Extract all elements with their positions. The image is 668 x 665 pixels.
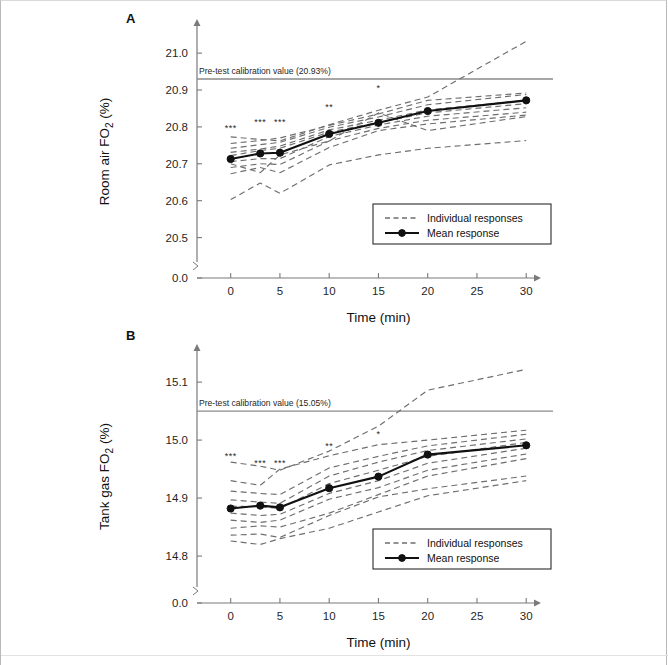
- tank-gas-fo2-chart: B14.814.915.015.10.0Tank gas FO2 (%)0510…: [1, 326, 668, 656]
- mean-response-point: [424, 451, 431, 458]
- x-tick-label: 20: [421, 610, 434, 622]
- x-axis: 051015202530Time (min): [197, 598, 541, 650]
- x-tick-label: 25: [471, 610, 484, 622]
- legend: Individual responsesMean response: [373, 204, 551, 244]
- calibration-label: Pre-test calibration value (15.05%): [199, 398, 331, 408]
- significance-markers: ************: [225, 429, 381, 469]
- calibration-label: Pre-test calibration value (20.93%): [199, 66, 331, 76]
- y-tick-label: 21.0: [166, 47, 188, 59]
- figure-caption: [1, 655, 668, 665]
- x-axis: 051015202530Time (min): [197, 273, 541, 325]
- significance-marker: ***: [254, 117, 266, 127]
- mean-response-group: [227, 442, 530, 512]
- y-axis-title: Room air FO2 (%): [97, 98, 115, 206]
- mean-response-point: [523, 97, 530, 104]
- panel-letter-a: A: [126, 11, 136, 26]
- x-tick-label: 5: [277, 285, 283, 297]
- calibration-line-group: Pre-test calibration value (15.05%): [197, 398, 553, 411]
- y-tick-label: 20.6: [166, 195, 188, 207]
- mean-response-point: [375, 119, 382, 126]
- significance-marker: ***: [254, 458, 266, 468]
- y-tick-label: 15.0: [166, 434, 188, 446]
- mean-response-point: [257, 502, 264, 509]
- y-tick-label: 20.8: [166, 121, 188, 133]
- x-tick-label: 30: [520, 610, 533, 622]
- significance-marker: **: [325, 102, 333, 112]
- y-axis: 20.520.620.720.820.921.00.0: [166, 19, 202, 284]
- svg-text:Room air FO2 (%): Room air FO2 (%): [97, 98, 115, 206]
- x-axis-title: Time (min): [346, 310, 410, 325]
- mean-response-point: [523, 442, 530, 449]
- mean-response-point: [227, 155, 234, 162]
- mean-response-point: [326, 485, 333, 492]
- legend-label-mean: Mean response: [427, 227, 500, 239]
- y-tick-label: 14.8: [166, 550, 188, 562]
- significance-marker: *: [376, 83, 380, 93]
- x-tick-label: 0: [227, 285, 233, 297]
- legend-label-individual: Individual responses: [427, 537, 523, 549]
- x-tick-label: 0: [227, 610, 233, 622]
- mean-response-point: [326, 130, 333, 137]
- legend-label-individual: Individual responses: [427, 212, 523, 224]
- individual-responses-group: [231, 369, 527, 544]
- x-tick-label: 25: [471, 285, 484, 297]
- significance-marker: ***: [225, 123, 237, 133]
- legend-label-mean: Mean response: [427, 552, 500, 564]
- x-tick-label: 15: [372, 610, 385, 622]
- legend-marker-mean: [399, 555, 406, 562]
- y-tick-label: 14.9: [166, 492, 188, 504]
- chart-panel-b: B14.814.915.015.10.0Tank gas FO2 (%)0510…: [1, 326, 668, 656]
- significance-marker: *: [376, 429, 380, 439]
- y-axis-break-label: 0.0: [172, 597, 188, 609]
- x-tick-label: 20: [421, 285, 434, 297]
- legend-marker-mean: [399, 230, 406, 237]
- room-air-fo2-chart: A20.520.620.720.820.921.00.0Room air FO2…: [1, 1, 668, 331]
- mean-response-point: [227, 505, 234, 512]
- svg-text:Tank gas FO2 (%): Tank gas FO2 (%): [97, 423, 115, 530]
- mean-response-point: [276, 149, 283, 156]
- x-tick-label: 10: [323, 285, 336, 297]
- y-tick-label: 20.5: [166, 232, 188, 244]
- significance-marker: ***: [274, 117, 286, 127]
- mean-response-point: [375, 473, 382, 480]
- y-tick-label: 15.1: [166, 376, 188, 388]
- mean-response-point: [276, 504, 283, 511]
- x-tick-label: 5: [277, 610, 283, 622]
- x-tick-label: 15: [372, 285, 385, 297]
- x-axis-title: Time (min): [346, 635, 410, 650]
- y-axis: 14.814.915.015.10.0: [166, 344, 202, 609]
- legend: Individual responsesMean response: [373, 529, 551, 569]
- significance-marker: ***: [274, 458, 286, 468]
- chart-panel-a: A20.520.620.720.820.921.00.0Room air FO2…: [1, 1, 668, 331]
- individual-response-line: [231, 104, 527, 156]
- y-tick-label: 20.7: [166, 158, 188, 170]
- y-tick-label: 20.9: [166, 84, 188, 96]
- mean-response-point: [257, 150, 264, 157]
- x-tick-label: 10: [323, 610, 336, 622]
- y-axis-title: Tank gas FO2 (%): [97, 423, 115, 530]
- mean-response-line: [231, 100, 527, 159]
- significance-marker: ***: [225, 451, 237, 461]
- mean-response-group: [227, 97, 530, 163]
- mean-response-point: [424, 107, 431, 114]
- panel-letter-b: B: [126, 328, 135, 343]
- y-axis-break-label: 0.0: [172, 272, 188, 284]
- x-tick-label: 30: [520, 285, 533, 297]
- calibration-line-group: Pre-test calibration value (20.93%): [197, 66, 553, 79]
- significance-marker: **: [325, 441, 333, 451]
